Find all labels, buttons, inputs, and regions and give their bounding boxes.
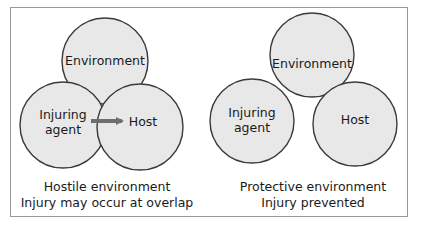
protective-caption: Protective environment Injury prevented — [213, 179, 413, 211]
environment-label: Environment — [65, 53, 145, 68]
host-label: Host — [341, 112, 370, 127]
protective-caption-line1: Protective environment — [213, 179, 413, 195]
injuring-agent-label-line1: Injuring — [39, 107, 86, 122]
injuring-agent-label-line2: agent — [234, 120, 270, 135]
host-label: Host — [129, 114, 158, 129]
hostile-caption: Hostile environment Injury may occur at … — [7, 179, 207, 211]
protective-diagram: Environment Injuring agent Host — [210, 13, 397, 166]
injuring-agent-label-line2: agent — [45, 122, 81, 137]
environment-label: Environment — [272, 56, 352, 71]
hostile-caption-line1: Hostile environment — [7, 179, 207, 195]
protective-caption-line2: Injury prevented — [213, 195, 413, 211]
injuring-agent-label-line1: Injuring — [228, 105, 275, 120]
hostile-diagram: Environment Injuring agent Host — [20, 18, 183, 170]
hostile-caption-line2: Injury may occur at overlap — [7, 195, 207, 211]
